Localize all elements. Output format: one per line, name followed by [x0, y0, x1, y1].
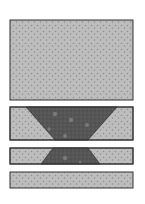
layer-2	[10, 107, 133, 140]
layer-diagram	[0, 0, 145, 204]
layer-3	[10, 148, 133, 164]
layer-4	[10, 172, 133, 188]
top-block	[10, 20, 133, 100]
